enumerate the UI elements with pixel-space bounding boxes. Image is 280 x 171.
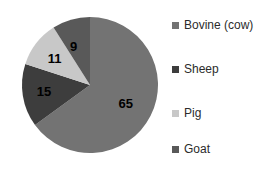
legend-item-bovine-cow[interactable]: Bovine (cow) — [172, 18, 253, 32]
legend-swatch-icon — [172, 110, 179, 117]
legend-item-label: Pig — [184, 106, 201, 120]
pie-svg — [0, 0, 180, 171]
chart-legend: Bovine (cow)SheepPigGoat — [172, 18, 280, 154]
slice-label-bovine: 65 — [119, 97, 133, 110]
legend-item-label: Sheep — [184, 62, 219, 76]
legend-swatch-icon — [172, 146, 179, 153]
slice-label-sheep: 15 — [37, 85, 51, 98]
legend-swatch-icon — [172, 66, 179, 73]
legend-item-sheep[interactable]: Sheep — [172, 62, 219, 76]
slice-label-goat: 9 — [70, 40, 77, 53]
legend-item-pig[interactable]: Pig — [172, 106, 201, 120]
legend-item-label: Goat — [184, 142, 210, 156]
pie-plot-area: 65 15 11 9 — [0, 0, 180, 171]
slice-label-pig: 11 — [48, 52, 62, 65]
legend-swatch-icon — [172, 22, 179, 29]
legend-item-label: Bovine (cow) — [184, 18, 253, 32]
legend-item-goat[interactable]: Goat — [172, 142, 210, 156]
pie-chart: 65 15 11 9 Bovine (cow)SheepPigGoat — [0, 0, 280, 171]
